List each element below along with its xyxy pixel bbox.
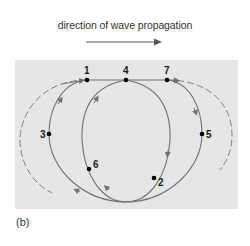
solid-loop-right [82,80,202,202]
point-2: 2 [152,176,164,188]
point-7: 7 [164,65,170,82]
dashed-arc-left [20,80,87,193]
point-4: 4 [123,65,129,82]
dashed-arc-right [167,80,232,170]
svg-text:3: 3 [40,129,46,140]
svg-text:1: 1 [84,65,90,76]
svg-text:6: 6 [93,159,99,170]
wave-particle-motion-diagram: 1 4 7 3 5 6 2 [0,0,250,246]
svg-text:5: 5 [206,129,212,140]
figure-caption: (b) [16,216,29,228]
solid-loop-left [49,80,170,202]
svg-text:4: 4 [123,65,129,76]
point-6: 6 [87,159,99,171]
svg-text:2: 2 [158,177,164,188]
svg-text:7: 7 [164,65,170,76]
point-1: 1 [84,65,90,82]
